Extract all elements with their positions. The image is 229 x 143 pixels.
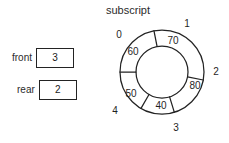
ring-value-1: 70: [167, 36, 178, 46]
ring-graphic: [100, 0, 229, 143]
ring-value-3: 40: [155, 101, 166, 111]
rear-pointer-box: 2: [39, 80, 77, 100]
ring-value-0: 60: [127, 47, 138, 57]
circular-queue-diagram: subscript 0 1 2 3: [100, 0, 229, 143]
rear-pointer-value: 2: [55, 85, 61, 95]
ring-value-2: 80: [189, 81, 200, 91]
rear-pointer-row: rear 2: [17, 80, 77, 100]
ring-subscript-3: 3: [173, 123, 179, 133]
ring-inner-circle: [136, 46, 188, 98]
front-pointer-label: front: [12, 53, 32, 63]
front-pointer-value: 3: [52, 53, 58, 63]
diagram-canvas: front 3 rear 2 subscript: [0, 0, 229, 143]
front-pointer-box: 3: [36, 48, 74, 68]
ring-subscript-2: 2: [213, 67, 219, 77]
ring-value-4: 50: [125, 89, 136, 99]
front-pointer-row: front 3: [12, 48, 74, 68]
ring-divider-0: [154, 31, 157, 47]
ring-divider-3: [141, 95, 149, 109]
ring-subscript-0: 0: [116, 30, 122, 40]
rear-pointer-label: rear: [17, 85, 35, 95]
ring-subscript-1: 1: [184, 19, 190, 29]
ring-divider-2: [170, 97, 175, 112]
ring-subscript-4: 4: [112, 106, 118, 116]
